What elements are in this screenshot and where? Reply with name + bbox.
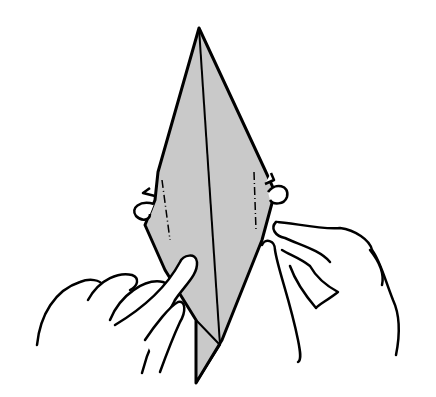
origami-diagram: Origami folding step illustration with t…	[0, 0, 436, 397]
left-hand	[37, 256, 197, 373]
right-hand	[262, 222, 399, 362]
